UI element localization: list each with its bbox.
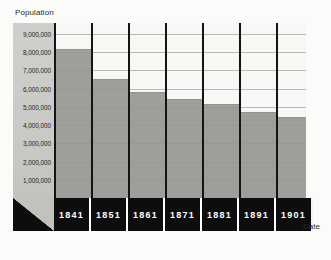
bar-column[interactable] xyxy=(54,23,91,198)
gridline xyxy=(91,52,128,53)
y-axis-tick-label: 6,000,000 xyxy=(23,85,51,92)
gridline xyxy=(165,180,202,181)
x-label-separator xyxy=(274,198,276,231)
gridline xyxy=(202,52,239,53)
gridline xyxy=(202,180,239,181)
x-axis-label-1861[interactable]: 1861 xyxy=(128,198,163,231)
y-axis-tick-label: 5,000,000 xyxy=(23,103,51,110)
bar-column[interactable] xyxy=(239,23,276,198)
column-separator xyxy=(128,23,130,198)
x-axis-label-1841[interactable]: 1841 xyxy=(54,198,89,231)
gridline xyxy=(54,125,91,126)
gridline xyxy=(239,180,276,181)
gridline xyxy=(202,143,239,144)
column-separator xyxy=(276,23,278,198)
gridline xyxy=(239,107,276,108)
gridline xyxy=(91,125,128,126)
bar-column[interactable] xyxy=(91,23,128,198)
gridline xyxy=(202,89,239,90)
gridline xyxy=(128,70,165,71)
gridline xyxy=(91,89,128,90)
x-label-separator xyxy=(237,198,239,231)
y-axis-tick-label: 4,000,000 xyxy=(23,122,51,129)
column-separator xyxy=(239,23,241,198)
corner-wedge-decoration xyxy=(13,198,54,231)
gridline xyxy=(165,70,202,71)
gridline xyxy=(165,34,202,35)
gridline xyxy=(202,162,239,163)
gridline xyxy=(239,52,276,53)
bar-1881[interactable] xyxy=(202,104,239,198)
gridline xyxy=(202,34,239,35)
gridline xyxy=(54,52,91,53)
gridline xyxy=(239,34,276,35)
gridline xyxy=(239,143,276,144)
y-axis-tick-label: 9,000,000 xyxy=(23,30,51,37)
gridline xyxy=(128,162,165,163)
gridline xyxy=(91,107,128,108)
gridline xyxy=(91,70,128,71)
x-label-separator xyxy=(163,198,165,231)
gridline xyxy=(165,107,202,108)
population-bar-chart-figure: Population 9,000,0008,000,0007,000,0006,… xyxy=(0,0,331,260)
plot-right-margin xyxy=(306,23,313,198)
x-axis-label-band: 1841185118611871188118911901 xyxy=(54,198,313,231)
y-axis-tick-label: 3,000,000 xyxy=(23,140,51,147)
column-separator xyxy=(91,23,93,198)
y-axis-title: Population xyxy=(15,8,54,17)
gridline xyxy=(165,162,202,163)
gridline xyxy=(128,125,165,126)
column-separator xyxy=(165,23,167,198)
gridline xyxy=(128,52,165,53)
x-label-separator xyxy=(89,198,91,231)
gridline xyxy=(54,70,91,71)
x-label-separator xyxy=(126,198,128,231)
gridline xyxy=(202,107,239,108)
column-separator xyxy=(202,23,204,198)
plot-area xyxy=(54,23,313,198)
gridline xyxy=(128,89,165,90)
gridline xyxy=(239,162,276,163)
x-axis-label-1851[interactable]: 1851 xyxy=(91,198,126,231)
bar-1871[interactable] xyxy=(165,99,202,198)
gridline xyxy=(165,143,202,144)
y-axis-tick-label: 8,000,000 xyxy=(23,49,51,56)
x-axis-label-1881[interactable]: 1881 xyxy=(202,198,237,231)
gridline xyxy=(239,89,276,90)
gridline xyxy=(91,180,128,181)
gridline xyxy=(202,70,239,71)
gridline xyxy=(54,180,91,181)
gridline xyxy=(91,143,128,144)
x-axis-title: Date xyxy=(303,222,320,231)
gridline xyxy=(165,89,202,90)
gridline xyxy=(165,125,202,126)
bar-column[interactable] xyxy=(202,23,239,198)
x-label-separator xyxy=(200,198,202,231)
column-separator xyxy=(54,23,56,198)
gridline xyxy=(128,143,165,144)
bar-column[interactable] xyxy=(165,23,202,198)
bar-column[interactable] xyxy=(128,23,165,198)
gridline xyxy=(91,34,128,35)
gridline xyxy=(54,89,91,90)
gridline xyxy=(54,162,91,163)
gridline xyxy=(128,107,165,108)
y-axis-tick-label: 1,000,000 xyxy=(23,176,51,183)
bar-1861[interactable] xyxy=(128,92,165,198)
gridline xyxy=(54,143,91,144)
x-axis-label-1891[interactable]: 1891 xyxy=(239,198,274,231)
gridline xyxy=(239,125,276,126)
y-axis-tick-label: 2,000,000 xyxy=(23,158,51,165)
gridline xyxy=(54,34,91,35)
gridline xyxy=(202,125,239,126)
gridline xyxy=(239,70,276,71)
gridline xyxy=(91,162,128,163)
x-axis-label-1871[interactable]: 1871 xyxy=(165,198,200,231)
gridline xyxy=(128,180,165,181)
y-axis-tick-label: 7,000,000 xyxy=(23,67,51,74)
gridline xyxy=(128,34,165,35)
gridline xyxy=(165,52,202,53)
gridline xyxy=(54,107,91,108)
